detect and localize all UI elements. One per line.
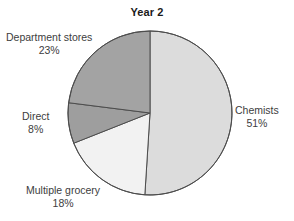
pie-slice-chemists [145,31,232,195]
pie-label-direct-percent: 8% [22,123,49,136]
pie-label-department-stores-percent: 23% [6,44,92,57]
pie-label-chemists-name: Chemists [235,104,279,117]
pie-label-multiple-grocery-percent: 18% [26,197,100,210]
pie-label-multiple-grocery: Multiple grocery 18% [26,184,100,210]
pie-label-direct: Direct 8% [22,110,49,136]
pie-chart-figure: Year 2 Department stores 23% Chemists 51… [0,0,294,221]
pie-label-multiple-grocery-name: Multiple grocery [26,184,100,197]
pie-label-department-stores-name: Department stores [6,31,92,44]
pie-label-chemists-percent: 51% [235,117,279,130]
pie-label-direct-name: Direct [22,110,49,123]
pie-label-chemists: Chemists 51% [235,104,279,130]
pie-label-department-stores: Department stores 23% [6,31,92,57]
